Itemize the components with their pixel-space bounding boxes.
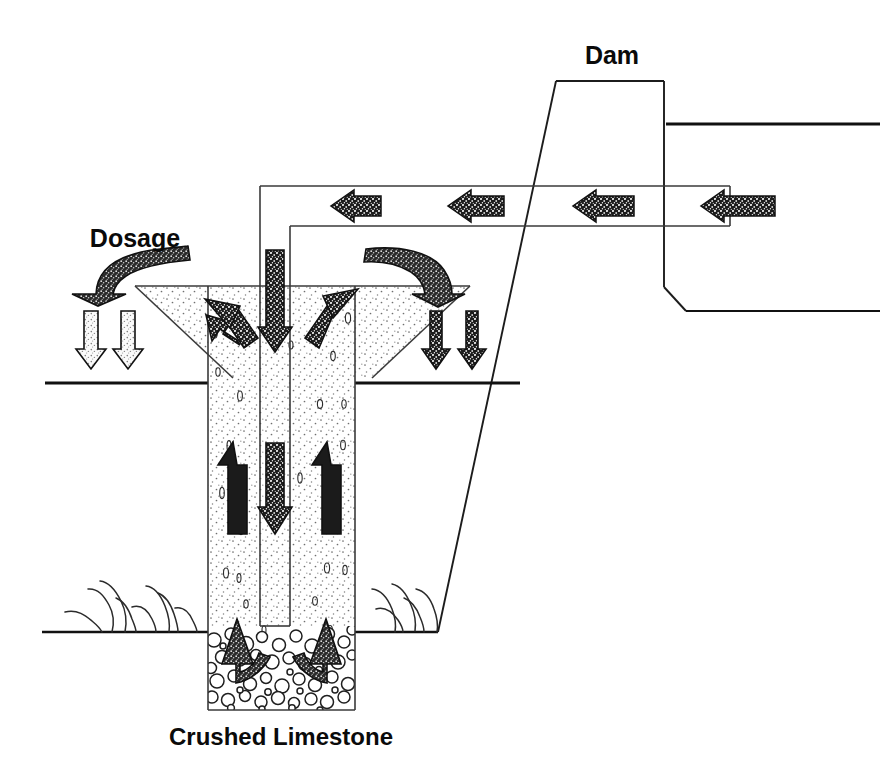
surface-infiltration-arrows-right [422, 311, 486, 369]
crushed-limestone-label: Crushed Limestone [169, 723, 393, 750]
surface-arrow-left-1 [76, 311, 106, 369]
channel-arrow-3 [573, 190, 634, 222]
dosage-label: Dosage [90, 224, 180, 252]
water-surface-lines [666, 124, 880, 311]
channel-arrow-1 [331, 190, 381, 222]
limestone-dosing-diagram: Dosage Dam Crushed Limestone [0, 0, 880, 772]
shaft-fill-group [135, 286, 470, 710]
dam-upstream-face [438, 81, 556, 632]
dam-toe-slope [664, 287, 686, 311]
channel-arrow-4 [701, 190, 775, 222]
surface-arrow-left-2 [113, 311, 143, 369]
dam-label: Dam [585, 41, 639, 69]
surface-infiltration-arrows-left [76, 311, 143, 369]
channel-flow-arrows [331, 190, 775, 222]
channel-arrow-2 [448, 190, 504, 222]
diagram-canvas: Dosage Dam Crushed Limestone [0, 0, 880, 772]
surface-arrow-right-2 [458, 311, 486, 369]
